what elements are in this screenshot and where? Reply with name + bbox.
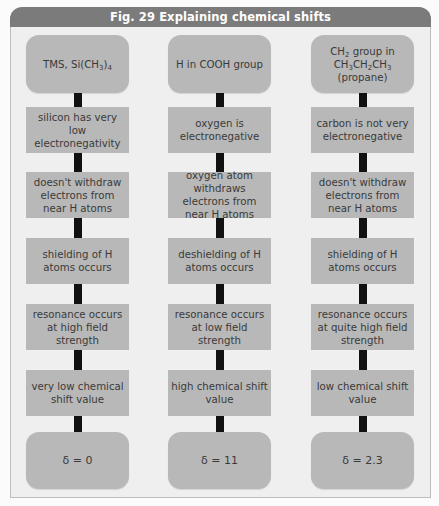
start-box-tms: TMS, Si(CH3)4 (26, 35, 129, 93)
step-box: low chemical shift value (311, 370, 414, 416)
connector (74, 93, 82, 107)
step-box: oxygen atom withdraws electrons from nea… (168, 172, 271, 218)
connector (216, 350, 224, 370)
step-box: oxygen is electronegative (168, 107, 271, 153)
result-box: δ = 0 (26, 432, 129, 489)
connector (74, 153, 82, 172)
step-box: very low chemical shift value (26, 370, 129, 416)
result-box: δ = 11 (168, 432, 271, 489)
step-box: doesn't withdraw electrons from near H a… (26, 172, 129, 218)
step-box: shielding of H atoms occurs (26, 238, 129, 284)
step-box: doesn't withdraw electrons from near H a… (311, 172, 414, 218)
connector (359, 93, 367, 107)
step-box: deshielding of H atoms occurs (168, 238, 271, 284)
step-box: high chemical shift value (168, 370, 271, 416)
start-box-cooh: H in COOH group (168, 35, 271, 93)
figure-title: Fig. 29 Explaining chemical shifts (10, 7, 431, 27)
connector (359, 284, 367, 304)
connector (74, 416, 82, 432)
start-box-propane: CH2 group inCH3CH2CH3 (propane) (311, 35, 414, 93)
connector (359, 416, 367, 432)
connector (359, 218, 367, 238)
step-box: resonance occurs at quite high field str… (311, 304, 414, 350)
connector (216, 218, 224, 238)
step-box: resonance occurs at low field strength (168, 304, 271, 350)
step-box: resonance occurs at high field strength (26, 304, 129, 350)
connector (216, 284, 224, 304)
connector (359, 153, 367, 172)
result-box: δ = 2.3 (311, 432, 414, 489)
connector (216, 416, 224, 432)
connector (74, 284, 82, 304)
connector (216, 93, 224, 107)
connector (74, 350, 82, 370)
connector (74, 218, 82, 238)
start-label: CH2 group inCH3CH2CH3 (propane) (313, 45, 412, 84)
step-box: shielding of H atoms occurs (311, 238, 414, 284)
step-box: carbon is not very electronegative (311, 107, 414, 153)
connector (359, 350, 367, 370)
start-label: TMS, Si(CH3)4 (43, 58, 112, 71)
step-box: silicon has very low electronegativity (26, 107, 129, 153)
